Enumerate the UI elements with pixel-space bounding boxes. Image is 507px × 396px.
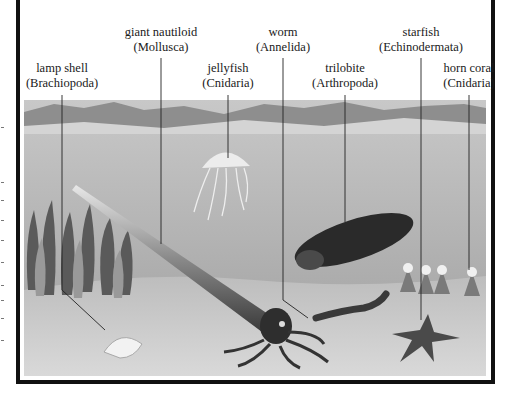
illustration-scene <box>24 100 486 376</box>
label-lamp-shell: lamp shell (Brachiopoda) <box>26 61 98 91</box>
label-jellyfish: jellyfish (Cnidaria) <box>202 61 253 91</box>
label-starfish: starfish (Echinodermata) <box>379 25 463 55</box>
label-giant-nautiloid: giant nautiloid (Mollusca) <box>125 25 198 55</box>
label-worm: worm (Annelida) <box>256 25 310 55</box>
nautiloid-head <box>260 308 292 344</box>
label-horn-coral: horn coral (Cnidaria) <box>443 61 494 91</box>
left-margin-text-fragments <box>0 0 14 396</box>
label-trilobite: trilobite (Arthropoda) <box>312 61 378 91</box>
